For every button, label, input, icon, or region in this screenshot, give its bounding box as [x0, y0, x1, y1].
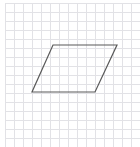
- grid-and-shape-svg: [0, 0, 140, 147]
- figure-canvas: [0, 0, 140, 147]
- grid-background: [5, 3, 140, 147]
